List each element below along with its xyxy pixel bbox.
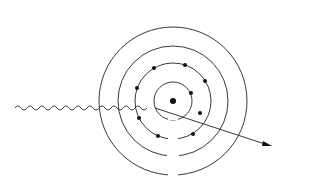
- electron: [189, 91, 193, 95]
- electron: [198, 111, 202, 115]
- arrowhead-icon: [262, 141, 272, 146]
- electron: [152, 66, 156, 70]
- electron: [137, 116, 141, 120]
- atom-diagram: [0, 0, 327, 188]
- electron: [203, 79, 207, 83]
- electron: [183, 63, 187, 67]
- electron: [156, 134, 160, 138]
- electron: [191, 132, 195, 136]
- nucleus: [170, 98, 176, 104]
- incident-photon-wave: [15, 106, 147, 110]
- electron: [135, 86, 139, 90]
